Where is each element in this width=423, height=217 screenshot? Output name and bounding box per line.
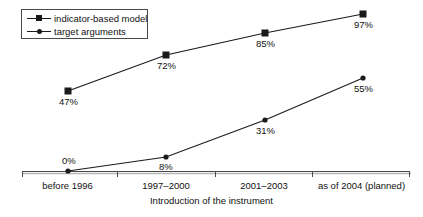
- chart-container: indicator-based model target arguments 4…: [0, 0, 423, 217]
- data-label: 55%: [354, 83, 373, 94]
- x-axis-title: Introduction of the instrument: [0, 195, 423, 207]
- x-tick-label-before-1996: before 1996: [20, 180, 115, 192]
- data-point-marker: [65, 168, 70, 173]
- data-point-marker: [65, 88, 72, 95]
- legend-label: target arguments: [51, 26, 126, 37]
- x-tick-label-2001-2003: 2001–2003: [216, 180, 312, 192]
- data-point-marker: [163, 154, 168, 159]
- x-tick-label-1997-2000: 1997–2000: [118, 180, 214, 192]
- data-point-marker: [360, 11, 367, 18]
- legend-label: indicator-based model: [51, 13, 147, 24]
- data-point-marker: [262, 30, 269, 37]
- data-label: 85%: [256, 38, 275, 49]
- series-line-target-arguments: [68, 78, 363, 171]
- data-point-marker: [360, 75, 365, 80]
- chart-legend: indicator-based model target arguments: [21, 9, 148, 39]
- data-label: 8%: [159, 161, 173, 172]
- data-label: 47%: [59, 96, 78, 107]
- data-label: 97%: [354, 19, 373, 30]
- data-label: 31%: [256, 125, 275, 136]
- data-label: 0%: [62, 155, 76, 166]
- data-label: 72%: [157, 60, 176, 71]
- x-tick-label-as-of-2004: as of 2004 (planned): [313, 180, 410, 192]
- square-marker-icon: [27, 13, 51, 24]
- circle-marker-icon: [27, 26, 51, 37]
- legend-item-indicator-based-model: indicator-based model: [27, 12, 147, 25]
- data-point-marker: [262, 117, 267, 122]
- series-markers-target-arguments: [65, 75, 365, 173]
- data-point-marker: [163, 52, 170, 59]
- legend-item-target-arguments: target arguments: [27, 25, 126, 38]
